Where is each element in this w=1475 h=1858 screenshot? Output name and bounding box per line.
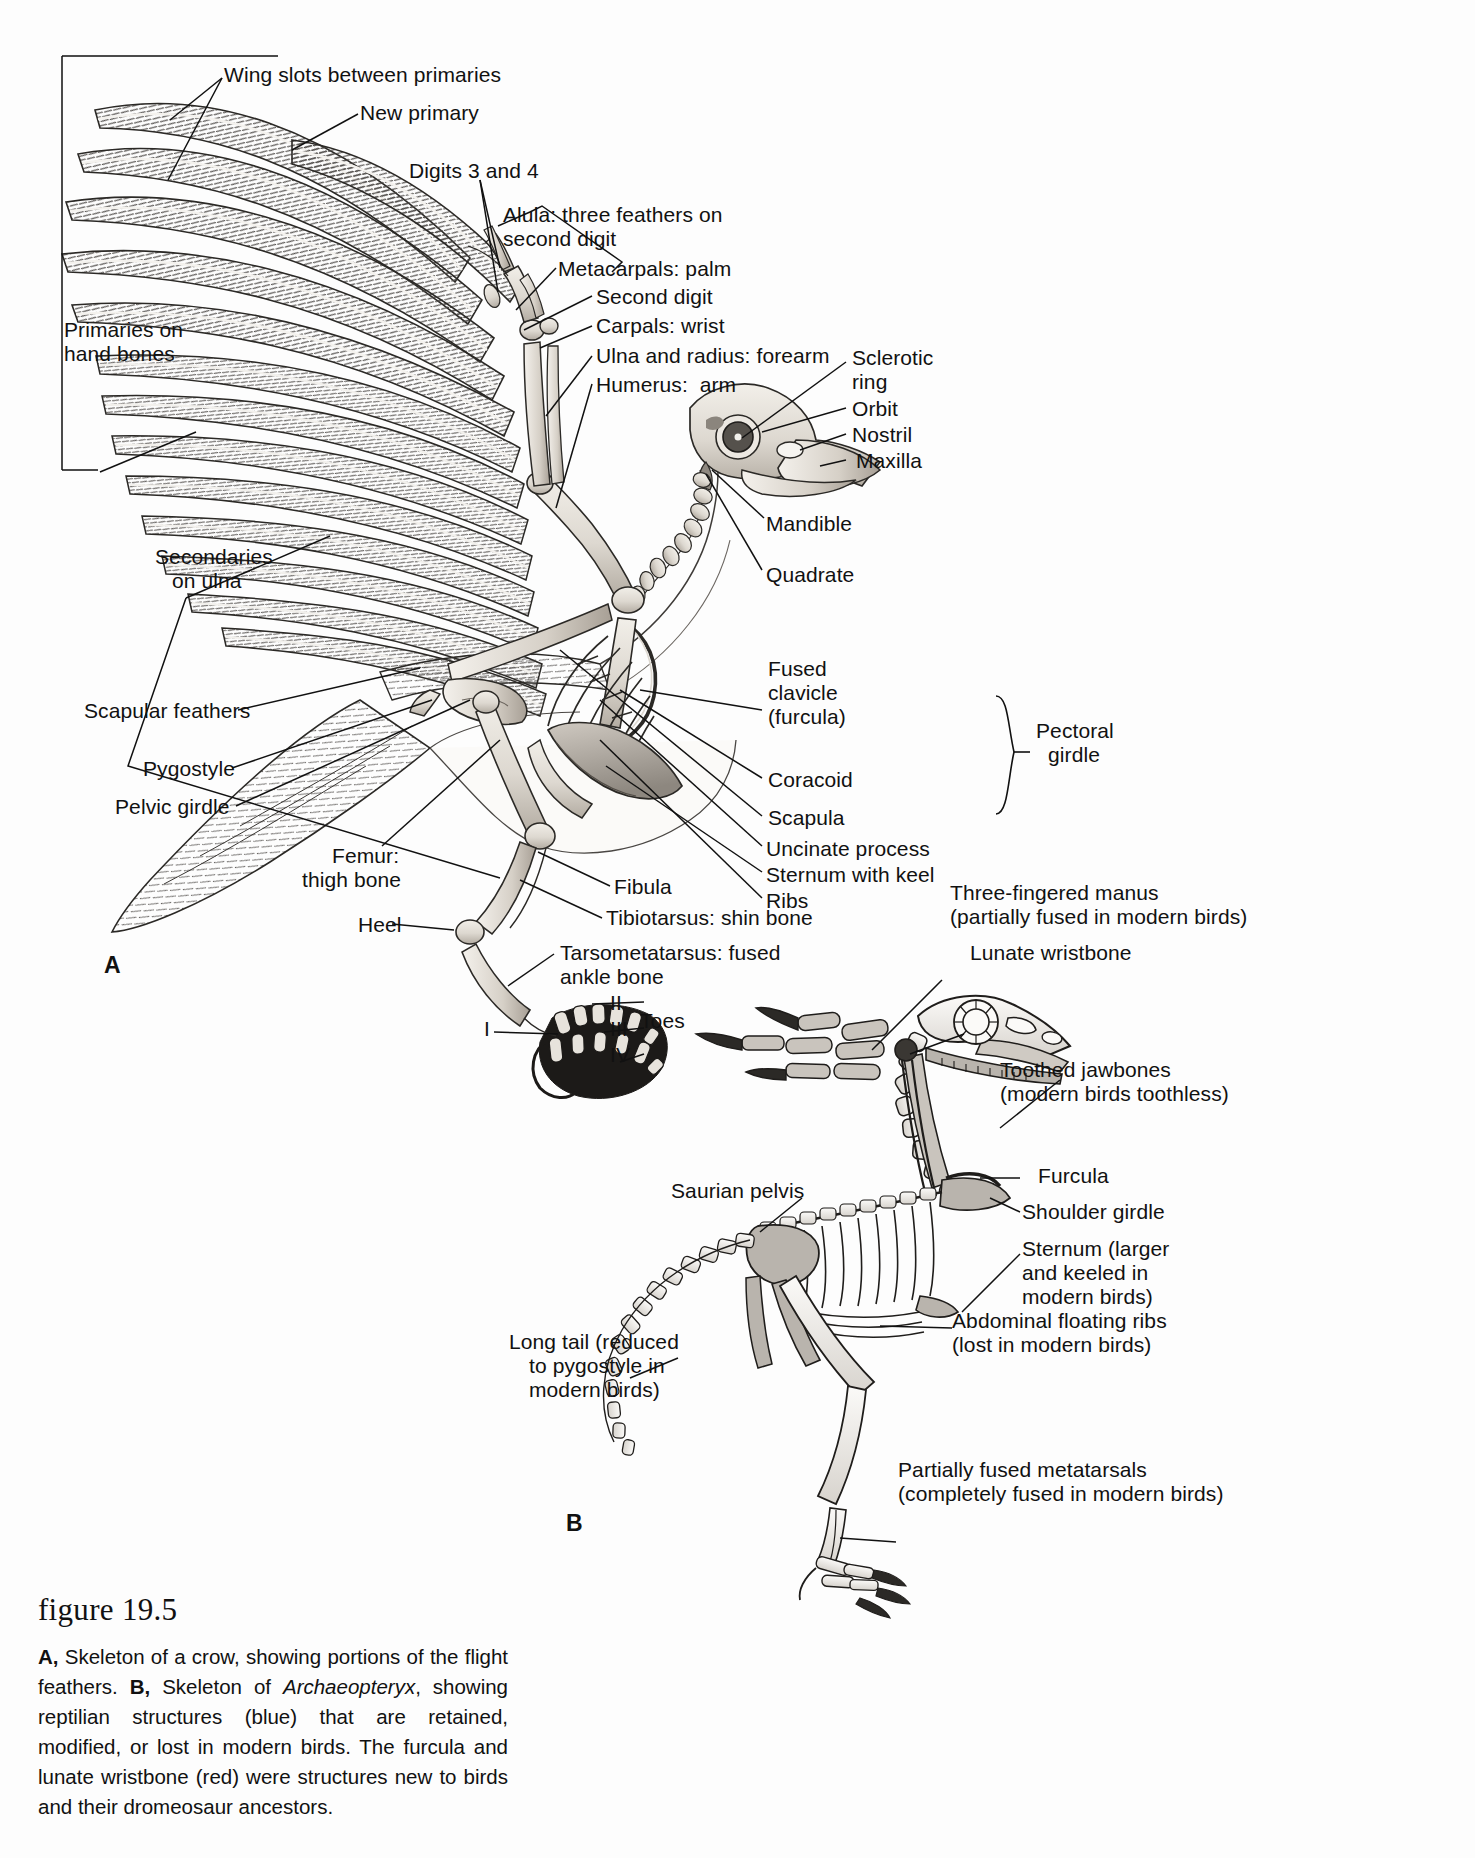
label-lunate-wristbone: Lunate wristbone	[970, 940, 1132, 965]
label-manus-line1: Three-fingered manus	[950, 880, 1159, 905]
label-alula-line1: Alula: three feathers on	[503, 202, 723, 227]
label-shoulder-girdle: Shoulder girdle	[1022, 1199, 1165, 1224]
label-toe-i: I	[484, 1016, 490, 1041]
figure-page: Wing slots between primaries New primary…	[0, 0, 1475, 1858]
caption-b-tag: B,	[130, 1675, 151, 1698]
label-toothed-line1: Toothed jawbones	[1000, 1057, 1171, 1082]
label-alula-line2: second digit	[503, 226, 616, 251]
label-fibula: Fibula	[614, 874, 672, 899]
label-humerus: Humerus: arm	[596, 372, 736, 397]
caption-a-tag: A,	[38, 1645, 59, 1668]
label-heel: Heel	[358, 912, 402, 937]
label-metatarsals-line1: Partially fused metatarsals	[898, 1457, 1147, 1482]
label-mandible: Mandible	[766, 511, 852, 536]
label-sclerotic-line1: Sclerotic	[852, 345, 933, 370]
label-quadrate: Quadrate	[766, 562, 854, 587]
label-secondaries-line2: on ulna	[172, 568, 242, 593]
label-abdominal-line1: Abdominal floating ribs	[952, 1308, 1167, 1333]
label-sclerotic-line2: ring	[852, 369, 887, 394]
label-sternum-with-keel: Sternum with keel	[766, 862, 935, 887]
label-second-digit: Second digit	[596, 284, 713, 309]
label-manus-line2: (partially fused in modern birds)	[950, 904, 1247, 929]
label-fused-clavicle-line2: clavicle	[768, 680, 838, 705]
caption-b-text-1: Skeleton of	[150, 1675, 283, 1698]
label-abdominal-line2: (lost in modern birds)	[952, 1332, 1151, 1357]
label-scapular-feathers: Scapular feathers	[84, 698, 250, 723]
label-toes: Toes	[640, 1008, 685, 1033]
label-metatarsals-line2: (completely fused in modern birds)	[898, 1481, 1224, 1506]
label-saurian-pelvis: Saurian pelvis	[671, 1178, 804, 1203]
label-pelvic-girdle: Pelvic girdle	[115, 794, 230, 819]
label-orbit: Orbit	[852, 396, 898, 421]
label-pygostyle: Pygostyle	[143, 756, 235, 781]
label-secondaries-line1: Secondaries	[155, 544, 273, 569]
label-toe-ii: II	[610, 990, 622, 1015]
label-sternum-line1: Sternum (larger	[1022, 1236, 1169, 1261]
label-scapula: Scapula	[768, 805, 845, 830]
label-long-tail-line3: modern birds)	[529, 1377, 660, 1402]
label-digits-3-and-4: Digits 3 and 4	[409, 158, 539, 183]
label-maxilla: Maxilla	[856, 448, 922, 473]
label-coracoid: Coracoid	[768, 767, 853, 792]
label-toe-iii: III	[610, 1016, 628, 1041]
label-primaries-line2: hand bones	[64, 341, 175, 366]
label-sternum-line3: modern birds)	[1022, 1284, 1153, 1309]
label-ribs: Ribs	[766, 888, 808, 913]
label-femur-line1: Femur:	[332, 843, 399, 868]
label-toothed-line2: (modern birds toothless)	[1000, 1081, 1229, 1106]
label-femur-line2: thigh bone	[302, 867, 401, 892]
label-new-primary: New primary	[360, 100, 479, 125]
label-primaries-line1: Primaries on	[64, 317, 183, 342]
figure-caption-body: A, Skeleton of a crow, showing portions …	[38, 1642, 508, 1822]
figure-caption: figure 19.5 A, Skeleton of a crow, showi…	[38, 1592, 508, 1822]
panel-b-letter: B	[566, 1510, 583, 1537]
label-fused-clavicle-line3: (furcula)	[768, 704, 846, 729]
label-metacarpals: Metacarpals: palm	[558, 256, 731, 281]
label-nostril: Nostril	[852, 422, 912, 447]
label-long-tail-line1: Long tail (reduced	[509, 1329, 679, 1354]
figure-title-word: figure	[38, 1592, 114, 1627]
label-pectoral-line1: Pectoral	[1036, 718, 1114, 743]
label-fused-clavicle-line1: Fused	[768, 656, 827, 681]
label-sternum-line2: and keeled in	[1022, 1260, 1148, 1285]
label-ulna-radius: Ulna and radius: forearm	[596, 343, 830, 368]
label-tarsometatarsus-line2: ankle bone	[560, 964, 664, 989]
figure-title: figure 19.5	[38, 1592, 508, 1628]
label-wing-slots: Wing slots between primaries	[224, 62, 501, 87]
label-furcula: Furcula	[1038, 1163, 1109, 1188]
label-long-tail-line2: to pygostyle in	[529, 1353, 665, 1378]
label-toe-iv: IV	[610, 1042, 630, 1067]
caption-b-italic: Archaeopteryx	[283, 1675, 415, 1698]
label-carpals: Carpals: wrist	[596, 313, 725, 338]
label-uncinate-process: Uncinate process	[766, 836, 930, 861]
figure-number: 19.5	[122, 1592, 177, 1627]
label-pectoral-line2: girdle	[1048, 742, 1100, 767]
label-tarsometatarsus-line1: Tarsometatarsus: fused	[560, 940, 780, 965]
panel-a-letter: A	[104, 952, 121, 979]
